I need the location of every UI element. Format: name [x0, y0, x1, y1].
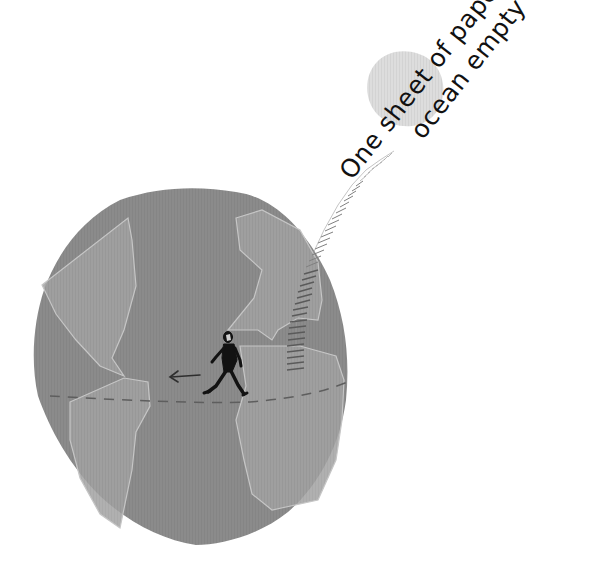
collage-illustration — [0, 0, 590, 579]
